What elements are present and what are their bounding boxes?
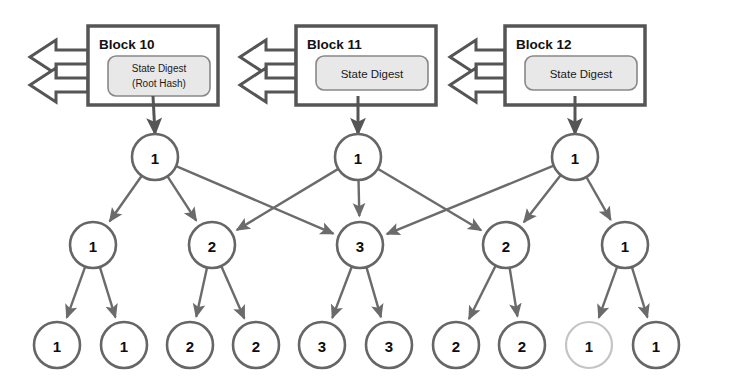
prev-block-arrow-icon <box>450 68 505 102</box>
tree-node-label: 3 <box>385 338 393 355</box>
tree-node-label: 1 <box>571 150 579 167</box>
tree-intermediate-node[interactable]: 1 <box>602 222 648 268</box>
root-to-middle-edge <box>378 169 481 230</box>
tree-leaf-node[interactable]: 1 <box>633 322 679 368</box>
tree-intermediate-node[interactable]: 1 <box>70 222 116 268</box>
tree-leaf-node[interactable]: 3 <box>299 322 345 368</box>
middle-to-leaf-edge <box>632 267 648 317</box>
tree-node-label: 1 <box>89 238 97 255</box>
tree-leaf-node[interactable]: 1 <box>566 322 612 368</box>
middle-to-leaf-edge <box>366 267 381 317</box>
prev-block-arrow-icon <box>240 40 296 74</box>
middle-to-leaf-edge <box>196 267 207 316</box>
tree-node-label: 1 <box>354 150 362 167</box>
block-title: Block 10 <box>99 37 155 52</box>
tree-node-label: 1 <box>621 238 629 255</box>
root-to-middle-edge <box>524 175 561 222</box>
tree-node-label: 1 <box>120 338 128 355</box>
tree-root-node[interactable]: 1 <box>335 134 381 180</box>
tree-node-label: 2 <box>518 338 526 355</box>
tree-leaf-node[interactable]: 1 <box>101 322 147 368</box>
block-card[interactable]: Block 11State Digest <box>296 26 436 105</box>
tree-node-label: 1 <box>53 338 61 355</box>
block-title: Block 12 <box>516 37 572 52</box>
prev-block-arrow-icon <box>30 40 88 74</box>
middle-to-leaf-edge <box>67 267 85 318</box>
block-title: Block 11 <box>307 37 362 52</box>
middle-to-leaf-edge <box>469 266 496 319</box>
tree-node-label: 3 <box>356 238 364 255</box>
middle-to-leaf-edges-group <box>67 266 648 319</box>
prev-block-arrow-icon <box>30 68 88 102</box>
tree-leaf-node[interactable]: 2 <box>233 322 279 368</box>
tree-nodes-group: 111123211122332211 <box>34 134 679 368</box>
tree-node-label: 2 <box>502 238 510 255</box>
tree-leaf-node[interactable]: 1 <box>34 322 80 368</box>
root-to-middle-edge <box>110 176 142 221</box>
middle-to-leaf-edge <box>599 267 617 318</box>
root-to-middle-edge <box>176 166 333 233</box>
tree-intermediate-node[interactable]: 3 <box>337 222 383 268</box>
tree-node-label: 2 <box>208 238 216 255</box>
tree-leaf-node[interactable]: 2 <box>499 322 545 368</box>
tree-node-label: 2 <box>186 338 194 355</box>
tree-leaf-node[interactable]: 2 <box>167 322 213 368</box>
state-digest-sublabel: (Root Hash) <box>132 78 186 89</box>
state-digest-label: State Digest <box>550 68 613 80</box>
state-digest-label: State Digest <box>132 63 187 74</box>
tree-leaf-node[interactable]: 2 <box>433 322 479 368</box>
tree-node-label: 1 <box>652 338 660 355</box>
tree-intermediate-node[interactable]: 2 <box>483 222 529 268</box>
block-card[interactable]: Block 10State Digest(Root Hash) <box>88 26 218 105</box>
middle-to-leaf-edge <box>332 267 352 318</box>
prev-block-arrow-icon <box>240 68 296 102</box>
tree-root-node[interactable]: 1 <box>552 134 598 180</box>
tree-leaf-node[interactable]: 3 <box>366 322 412 368</box>
diagram-canvas: Block 10State Digest(Root Hash)Block 11S… <box>0 0 732 385</box>
state-digest-label: State Digest <box>341 68 404 80</box>
state-digest-box[interactable] <box>108 56 210 96</box>
tree-intermediate-node[interactable]: 2 <box>189 222 235 268</box>
tree-node-label: 3 <box>318 338 326 355</box>
tree-node-label: 2 <box>452 338 460 355</box>
tree-node-label: 1 <box>151 150 159 167</box>
middle-to-leaf-edge <box>100 267 116 317</box>
tree-node-label: 1 <box>585 338 593 355</box>
block-card[interactable]: Block 12State Digest <box>505 26 645 105</box>
root-to-middle-edge <box>359 180 360 216</box>
middle-to-leaf-edge <box>510 268 518 317</box>
root-to-middle-edge <box>168 176 197 220</box>
state-tree-diagram: Block 10State Digest(Root Hash)Block 11S… <box>0 0 732 385</box>
middle-to-leaf-edge <box>221 266 244 318</box>
root-to-middle-edge <box>586 177 610 220</box>
blocks-group: Block 10State Digest(Root Hash)Block 11S… <box>88 26 645 105</box>
tree-node-label: 2 <box>252 338 260 355</box>
digest-to-root-edge <box>153 96 155 134</box>
tree-root-node[interactable]: 1 <box>132 134 178 180</box>
